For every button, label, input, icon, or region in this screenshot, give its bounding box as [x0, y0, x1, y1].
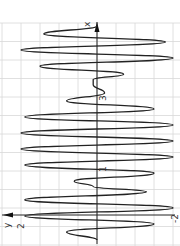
- y-axis-label: y: [2, 222, 12, 228]
- y-axis-arrow-icon: [3, 213, 13, 218]
- x-tick-1: 1: [98, 166, 108, 172]
- y-tick-neg2: -2: [170, 214, 180, 223]
- x-tick-3: 3: [98, 95, 108, 101]
- y-tick-2: 2: [16, 223, 26, 229]
- oscillation-chart: x y 2 -2 1 3: [0, 0, 180, 246]
- x-axis-label: x: [82, 21, 92, 27]
